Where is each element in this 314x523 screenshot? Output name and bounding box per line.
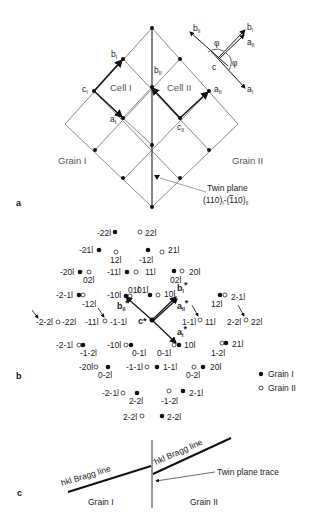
grain-II-label: Grain II [232, 155, 263, 166]
spot-label: -10l [107, 340, 121, 350]
panel-b-label: b [16, 371, 22, 381]
legend: Grain I Grain II [259, 369, 296, 393]
reciprocal-label-c: c* [138, 316, 147, 326]
inset-label-c: c [212, 62, 217, 72]
grain-I-spot [106, 365, 111, 370]
grain-II-spot [220, 341, 224, 345]
grain-II-spot [160, 250, 164, 254]
spot-label: 0-1l [157, 348, 171, 358]
grain-II-spot [244, 318, 248, 322]
grain-I-spot [201, 365, 206, 370]
legend-grain-I: Grain I [268, 369, 294, 379]
grain-II-spot [81, 293, 85, 297]
grain-I-spot [172, 269, 177, 274]
grain-II-spot [114, 250, 118, 254]
spot-label: 11l [205, 317, 216, 327]
spot-label: -20l [60, 267, 74, 277]
spot-label: -1-1l [126, 362, 143, 372]
spot-label: -10l [107, 290, 121, 300]
spot-label: -22l [97, 228, 111, 238]
hkl-bragg-line-label: hkl Bragg line [60, 463, 112, 488]
panel-c-label: c [17, 488, 22, 498]
vector-label-bI: bI [111, 49, 118, 60]
grain-II-spot [167, 389, 171, 393]
grain-I-spot [125, 270, 130, 275]
grain-I-spot [148, 293, 153, 298]
vector-label-cI: cI [82, 84, 88, 95]
spot-label: -1-1l [110, 317, 127, 327]
grain-I-spot [218, 293, 223, 298]
inset-label-bI: bI [247, 22, 253, 33]
legend-open-circle-icon [259, 386, 263, 390]
grain-II-spot [223, 293, 227, 297]
spot-label: 10l [184, 340, 195, 350]
spot-label: -20l [79, 362, 93, 372]
grain-II-spot [134, 270, 138, 274]
spot-label: 12l [211, 299, 222, 309]
figure-canvas: bI bII cI aI aII cII Cell I Cell II Grai… [0, 0, 314, 523]
spot-label: 22l [251, 317, 262, 327]
diffraction-spots: -22l22l-21l12l-12l21l-20l02l-11l11l20l02… [36, 228, 262, 422]
grain-II-spot [180, 269, 184, 273]
spot-label: 2-1l [231, 292, 245, 302]
grain-I-spot [160, 414, 165, 419]
spot-label: 20l [210, 362, 221, 372]
spot-label: -22l [62, 317, 76, 327]
inset-label-aI: aI [247, 84, 253, 95]
grain-II-spot [156, 293, 160, 297]
reciprocal-label-bII: bII* [117, 298, 129, 312]
grain-I-spot [135, 391, 140, 396]
trace-arrow-icon [156, 472, 215, 481]
grain-I-spot [78, 270, 83, 275]
spot-label: 2-2l [227, 317, 241, 327]
spot-label: -12l [139, 255, 153, 265]
spot-label: 21l [168, 245, 179, 255]
legend-grain-II: Grain II [268, 383, 296, 393]
vector-label-bII: bII [154, 65, 162, 76]
grain-II-spot [124, 343, 128, 347]
grain-II-spot [87, 270, 91, 274]
cell-II-label: Cell II [167, 82, 191, 93]
spot-label: -12l [82, 299, 96, 309]
spot-label: -1-2l [161, 396, 178, 406]
inset-angle-phi-2: φ [232, 58, 238, 68]
inset-label-aII: aII [247, 37, 255, 48]
spot-label: -11l [85, 317, 99, 327]
grain-I-spot [146, 248, 151, 253]
spot-label: 2-2l [123, 412, 137, 422]
grain-II-spot [192, 365, 196, 369]
grain-II-spot [138, 230, 142, 234]
spot-label: 10l [164, 289, 175, 299]
grain-II-spot [94, 365, 98, 369]
spot-label: 12l [110, 255, 121, 265]
grain-II-spot [121, 391, 125, 395]
grain-II-spot [56, 320, 60, 324]
spot-label: 02l [83, 275, 94, 285]
spot-label: 1-1l [163, 362, 177, 372]
grain-II-spot [140, 414, 144, 418]
spot-label: -2-1l [102, 388, 119, 398]
reciprocal-label-aII: aII* [177, 298, 189, 312]
spot-label: 21l [232, 339, 243, 349]
grain-II-spot [172, 343, 176, 347]
grain-I-spot [81, 343, 86, 348]
spot-label: 1-2l [211, 348, 225, 358]
grain-II-spot [103, 319, 107, 323]
spot-label: 01l [128, 285, 139, 295]
spot-label: 0-1l [132, 348, 146, 358]
vector-label-aI: aI [110, 114, 117, 125]
grain-II-spot [77, 343, 81, 347]
grain-I-spot [129, 343, 134, 348]
panel-c-grain-II: Grain II [190, 497, 218, 507]
grain-I-spot [155, 365, 160, 370]
spot-label: 22l [145, 228, 156, 238]
spot-label: 11l [145, 267, 156, 277]
grain-I-spot [77, 293, 82, 298]
spot-label: -2-2l [36, 317, 53, 327]
grain-I-label: Grain I [58, 155, 87, 166]
grain-II-spot [198, 318, 202, 322]
grain-I-spot [97, 248, 102, 253]
grain-I-spot [181, 389, 186, 394]
grain-I-spot [177, 343, 182, 348]
vector-label-aII: aII [214, 84, 222, 95]
